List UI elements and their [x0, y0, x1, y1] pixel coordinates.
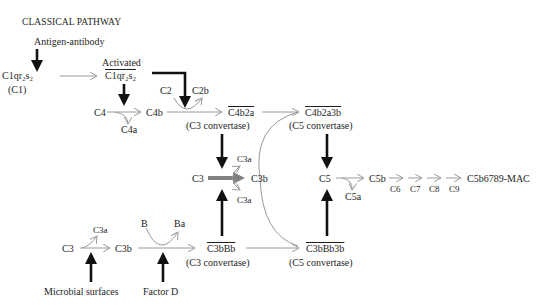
c3b-alternative: C3b — [115, 243, 132, 254]
c6: C6 — [390, 184, 401, 195]
pathway-title: CLASSICAL PATHWAY — [22, 17, 121, 28]
c3-convertase-alternative-label: (C3 convertase) — [186, 257, 250, 268]
antigen-antibody-label: Antigen-antibody — [34, 36, 105, 47]
activated-label: Activated — [102, 57, 141, 68]
c5-convertase-alternative: C3bBb3b — [306, 243, 344, 254]
c3a-bottom: C3a — [237, 195, 252, 206]
c5-convertase-classical-label: (C5 convertase) — [289, 120, 353, 131]
c1-complex: C1qr₂s₂ — [2, 70, 33, 81]
complement-pathway-diagram: CLASSICAL PATHWAY Antigen-antibody C1qr₂… — [0, 0, 553, 307]
mac-complex: C5b6789-MAC — [467, 173, 530, 184]
c3-alternative: C3 — [62, 243, 74, 254]
c2b: C2b — [192, 85, 209, 96]
c5-convertase-alternative-label: (C5 convertase) — [289, 257, 353, 268]
c5-convertase-classical: C4b2a3b — [305, 107, 341, 118]
factor-d-label: Factor D — [143, 286, 178, 297]
c5a: C5a — [345, 191, 361, 202]
activated-c1: C1qr₂s₂ — [105, 70, 136, 81]
c4a: C4a — [121, 124, 137, 135]
c3-central: C3 — [192, 173, 204, 184]
c5: C5 — [319, 173, 331, 184]
factor-b: B — [141, 218, 148, 229]
c3-convertase-classical-label: (C3 convertase) — [186, 120, 250, 131]
c3a-top: C3a — [237, 154, 252, 165]
c2: C2 — [160, 85, 172, 96]
c8: C8 — [429, 184, 440, 195]
c3a-alternative: C3a — [93, 225, 108, 236]
microbial-surfaces-label: Microbial surfaces — [44, 286, 119, 297]
c1-alias: (C1) — [8, 84, 26, 95]
c3-convertase-classical: C4b2a — [228, 107, 254, 118]
ba-fragment: Ba — [174, 218, 185, 229]
c4b: C4b — [146, 107, 163, 118]
c5b: C5b — [369, 173, 386, 184]
c9: C9 — [449, 184, 460, 195]
c4: C4 — [94, 107, 106, 118]
c7: C7 — [410, 184, 421, 195]
c3b-central: C3b — [251, 173, 268, 184]
c3-convertase-alternative: C3bBb — [207, 243, 235, 254]
